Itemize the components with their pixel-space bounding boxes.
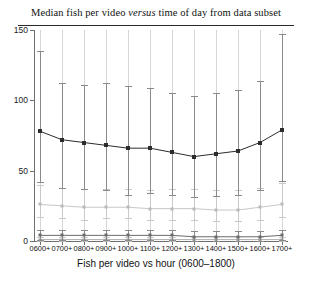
error-bar-cap [59,240,66,241]
y-axis-tick [30,171,35,172]
series-line [40,130,282,157]
error-bar-cap [103,240,110,241]
error-bar [172,93,173,194]
error-bar-cap [103,83,110,84]
error-bar-cap [235,195,242,196]
error-bar-cap [169,220,176,221]
error-bar-cap [37,230,44,231]
y-axis-tick-label: 50 [19,166,28,176]
data-point-marker [148,146,152,150]
error-bar-cap [103,190,110,191]
error-bar-cap [213,241,220,242]
error-bar [40,185,41,217]
error-bar-cap [59,188,66,189]
data-point-marker [192,155,196,159]
data-point-marker [127,234,130,237]
error-bar [260,81,261,191]
data-point-marker [38,129,42,133]
error-bar-cap [147,220,154,221]
data-point-marker [126,146,130,150]
error-bar-cap [169,195,176,196]
error-bar-cap [81,241,88,242]
error-bar-cap [257,231,264,232]
error-bar-cap [169,241,176,242]
data-point-marker [281,234,284,237]
error-bar-cap [257,241,264,242]
error-bar [194,96,195,197]
y-axis-tick-label: 150 [14,25,28,35]
data-point-marker [280,128,284,132]
chart-figure: Median fish per video versus time of day… [0,0,312,282]
error-bar [106,83,107,190]
data-point-marker [82,141,86,145]
data-point-marker [236,149,240,153]
plot-area [34,30,288,241]
error-bar-cap [235,241,242,242]
x-axis-line [34,241,288,242]
error-bar-cap [147,193,154,194]
data-point-marker [105,234,108,237]
data-point-marker [39,234,42,237]
data-point-marker [61,204,64,207]
x-axis-tick-label: 1100+ [140,244,160,253]
data-point-marker [237,235,240,238]
x-axis-tick-labels: 0600+0700+0800+0900+1000+1100+1200+1300+… [0,244,312,256]
x-axis-tick-label: 1400+ [206,244,227,253]
error-bar-cap [235,231,242,232]
data-point-marker [170,150,174,154]
error-bar-cap [147,240,154,241]
error-bar-cap [235,90,242,91]
error-bar-cap [213,231,220,232]
error-bar-cap [147,241,154,242]
error-bar [238,90,239,194]
error-bar-cap [147,88,154,89]
chart-title-prefix: Median fish per video [31,7,128,18]
error-bar [216,93,217,196]
error-bar-cap [235,221,242,222]
series-line [40,204,282,210]
y-axis-tick-label: 100 [14,95,28,105]
x-axis-tick-label: 0600+ [30,244,51,253]
x-axis-title: Fish per video vs hour (0600–1800) [0,258,312,269]
x-axis-tick-label: 0700+ [52,244,73,253]
error-bar-cap [279,217,286,218]
x-axis-tick-label: 1200+ [162,244,183,253]
error-bar-cap [81,220,88,221]
error-bar-cap [147,230,154,231]
error-bar [84,85,85,189]
error-bar [84,189,85,220]
data-point-marker [149,234,152,237]
error-bar-cap [279,230,286,231]
error-bar-cap [103,241,110,242]
error-bar-cap [59,230,66,231]
data-point-marker [281,203,284,206]
x-axis-tick-label: 1500+ [228,244,249,253]
error-bar-cap [279,183,286,184]
error-bar-cap [81,230,88,231]
data-point-marker [60,138,64,142]
error-bar-cap [279,34,286,35]
data-point-marker [104,143,108,147]
data-point-marker [39,203,42,206]
y-axis-tick-labels: 050100150 [0,30,34,241]
error-bar-cap [59,241,66,242]
error-bar-cap [81,240,88,241]
error-bar-cap [103,230,110,231]
error-bar-cap [37,217,44,218]
error-bar-cap [279,181,286,182]
error-bar-cap [279,241,286,242]
data-point-marker [149,207,152,210]
error-bar-cap [257,190,264,191]
error-bar-cap [125,230,132,231]
data-point-marker [259,206,262,209]
error-bar-cap [169,93,176,94]
error-bar-cap [37,185,44,186]
error-bar [150,88,151,194]
x-axis-tick-label: 1000+ [118,244,139,253]
error-bar-cap [59,218,66,219]
series-lines [34,30,288,241]
error-bar-cap [213,221,220,222]
x-axis-tick-label: 0800+ [74,244,95,253]
error-bar-cap [169,230,176,231]
data-point-marker [171,207,174,210]
